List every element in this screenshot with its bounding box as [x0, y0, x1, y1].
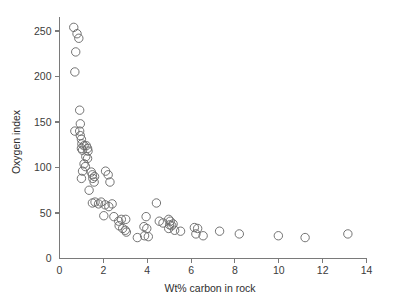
data-point	[235, 230, 243, 238]
x-axis-title: Wt% carbon in rock	[164, 282, 256, 294]
x-tick-label: 6	[188, 264, 194, 276]
x-tick-label: 4	[144, 264, 150, 276]
y-axis-title: Oxygen index	[10, 109, 22, 174]
data-point	[176, 227, 184, 235]
x-tick-label: 2	[100, 264, 106, 276]
data-point	[274, 232, 282, 240]
y-tick-label: 200	[34, 70, 52, 82]
data-point	[72, 48, 80, 56]
data-point	[100, 212, 108, 220]
y-tick-label: 150	[34, 116, 52, 128]
data-point	[75, 106, 83, 114]
data-point	[70, 23, 78, 31]
y-tick-label: 250	[34, 25, 52, 37]
x-tick-label: 14	[361, 264, 373, 276]
data-point	[85, 186, 93, 194]
data-point	[215, 227, 223, 235]
data-point-markers	[70, 23, 353, 242]
data-point	[140, 222, 148, 230]
y-tick-label: 50	[40, 207, 52, 219]
x-tick-label: 0	[57, 264, 63, 276]
data-point	[71, 127, 79, 135]
data-point	[344, 230, 352, 238]
data-point	[301, 233, 309, 241]
data-point	[75, 34, 83, 42]
x-tick-label: 8	[232, 264, 238, 276]
x-tick-label: 10	[273, 264, 285, 276]
data-point	[142, 212, 150, 220]
data-point	[71, 68, 79, 76]
y-tick-label: 0	[46, 252, 52, 264]
tick-marks	[55, 31, 367, 263]
x-tick-label: 12	[317, 264, 329, 276]
data-point	[106, 178, 114, 186]
scatter-plot-figure: 05010015020025002468101214 Wt% carbon in…	[0, 0, 394, 302]
data-point	[73, 30, 81, 38]
plot-canvas: 05010015020025002468101214 Wt% carbon in…	[0, 0, 394, 302]
plot-axes	[60, 17, 367, 258]
y-tick-label: 100	[34, 161, 52, 173]
data-point	[152, 199, 160, 207]
